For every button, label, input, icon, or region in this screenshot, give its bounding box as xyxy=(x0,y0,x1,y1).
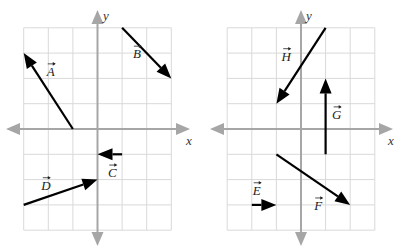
vector-arrowhead-icon xyxy=(276,88,289,104)
vector-shaft xyxy=(24,184,84,204)
vector-diagram: xyABCD xyHGFE xyxy=(0,0,402,251)
y-axis-down-arrow-icon xyxy=(92,232,104,246)
vector-label: F xyxy=(313,198,323,213)
vector-g: G xyxy=(320,78,342,154)
vector-label: A xyxy=(46,64,55,79)
vector-arrowhead-icon xyxy=(334,191,350,204)
y-axis-down-arrow-icon xyxy=(295,232,307,246)
vector-label: H xyxy=(281,49,292,64)
vector-arrowhead-icon xyxy=(98,148,113,160)
x-axis-left-arrow-icon xyxy=(210,123,224,135)
right-coordinate-graph: xyHGFE xyxy=(210,8,394,246)
vector-label: E xyxy=(252,183,261,198)
vector-shaft xyxy=(276,154,337,196)
vector-arrowhead-icon xyxy=(81,179,97,190)
y-axis-label: y xyxy=(304,8,312,23)
y-axis-up-arrow-icon xyxy=(92,10,104,24)
vector-label: D xyxy=(40,178,51,193)
vector-arrowhead-icon xyxy=(320,78,332,93)
y-axis-label: y xyxy=(101,8,109,23)
vector-label: G xyxy=(332,107,342,122)
vector-arrowhead-icon xyxy=(261,199,276,211)
vector-f: F xyxy=(276,154,350,213)
vector-label: B xyxy=(133,46,141,61)
x-axis-label: x xyxy=(185,133,192,148)
x-axis-label: x xyxy=(387,133,394,148)
vector-d: D xyxy=(24,176,98,205)
vector-shaft xyxy=(122,28,161,68)
vector-arrowhead-icon xyxy=(24,53,37,69)
x-axis-left-arrow-icon xyxy=(6,123,20,135)
left-coordinate-graph: xyABCD xyxy=(6,8,192,246)
axes: xy xyxy=(6,8,192,246)
vector-c: C xyxy=(98,148,123,180)
axes: xy xyxy=(210,8,394,246)
vector-label: C xyxy=(108,165,117,180)
vector-e: E xyxy=(252,181,277,211)
